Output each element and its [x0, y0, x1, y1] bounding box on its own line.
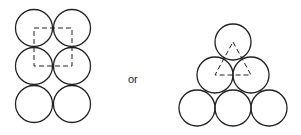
- or-label: or: [128, 73, 138, 85]
- dashed-square: [34, 28, 72, 66]
- triangular-packing-circle: [215, 90, 251, 126]
- square-packing-circle: [16, 86, 53, 123]
- triangular-packing-circle: [179, 90, 215, 126]
- packing-diagram: [0, 0, 301, 135]
- triangular-packing-group: [179, 24, 287, 126]
- triangular-packing-circle: [251, 90, 287, 126]
- square-packing-circle: [54, 86, 91, 123]
- square-packing-group: [16, 10, 91, 123]
